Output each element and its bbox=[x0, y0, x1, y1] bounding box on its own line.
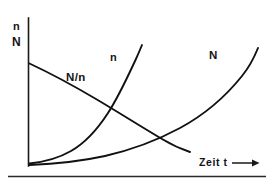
x-axis-arrow-head bbox=[252, 160, 260, 167]
chart-canvas bbox=[0, 0, 271, 187]
x-axis-label: Zeit t bbox=[199, 157, 228, 168]
figure-container: n N N/n n N Zeit t bbox=[0, 0, 271, 187]
curve-small-n bbox=[30, 45, 143, 164]
curve-ratio-n-over-N bbox=[30, 64, 191, 153]
curve-big-N bbox=[30, 48, 259, 165]
curve-label-n-over-N: N/n bbox=[66, 72, 86, 84]
curve-label-big-N: N bbox=[209, 50, 217, 62]
y-axis-label-N: N bbox=[12, 36, 21, 48]
y-axis-label-n: n bbox=[13, 21, 20, 32]
curve-label-small-n: n bbox=[110, 52, 117, 63]
